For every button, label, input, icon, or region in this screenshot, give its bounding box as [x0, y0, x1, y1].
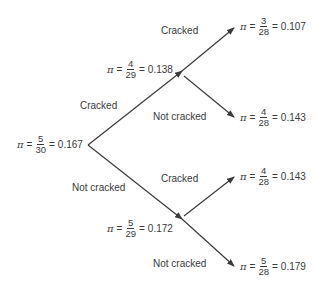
- equals-sign: =: [139, 224, 145, 234]
- pi-symbol: π: [240, 262, 247, 272]
- pi-symbol: π: [107, 224, 114, 234]
- probability-value: 0.179: [281, 262, 306, 272]
- leaf-probability-4: π = 5 28 = 0.179: [240, 256, 306, 277]
- leaf-probability-2: π = 4 28 = 0.143: [240, 107, 306, 128]
- equals-sign: =: [272, 172, 278, 182]
- equals-sign: =: [250, 262, 256, 272]
- equals-sign: =: [117, 224, 123, 234]
- label-upper-not-cracked: Not cracked: [153, 111, 206, 122]
- lower-node-probability: π = 5 29 = 0.172: [107, 218, 173, 239]
- equals-sign: =: [139, 65, 145, 75]
- label-first-cracked: Cracked: [80, 100, 117, 111]
- probability-value: 0.138: [148, 65, 173, 75]
- equals-sign: =: [250, 22, 256, 32]
- pi-symbol: π: [240, 113, 247, 123]
- probability-value: 0.107: [281, 22, 306, 32]
- leaf-probability-3: π = 4 28 = 0.143: [240, 166, 306, 187]
- upper-node-probability: π = 4 29 = 0.138: [107, 59, 173, 80]
- leaf-probability-1: π = 3 28 = 0.107: [240, 16, 306, 37]
- denominator: 28: [258, 177, 269, 187]
- denominator: 29: [125, 70, 136, 80]
- fraction: 5 28: [258, 256, 269, 277]
- probability-value: 0.143: [281, 172, 306, 182]
- denominator: 29: [125, 229, 136, 239]
- denominator: 30: [35, 145, 46, 155]
- equals-sign: =: [272, 22, 278, 32]
- probability-value: 0.167: [58, 140, 83, 150]
- fraction: 5 29: [125, 218, 136, 239]
- equals-sign: =: [272, 262, 278, 272]
- label-lower-not-cracked: Not cracked: [153, 258, 206, 269]
- label-upper-cracked: Cracked: [161, 25, 198, 36]
- label-first-not-cracked: Not cracked: [72, 182, 125, 193]
- fraction: 5 30: [35, 134, 46, 155]
- denominator: 28: [258, 118, 269, 128]
- probability-value: 0.143: [281, 113, 306, 123]
- equals-sign: =: [250, 113, 256, 123]
- probability-value: 0.172: [148, 224, 173, 234]
- pi-symbol: π: [240, 172, 247, 182]
- label-lower-cracked: Cracked: [161, 173, 198, 184]
- pi-symbol: π: [107, 65, 114, 75]
- pi-symbol: π: [240, 22, 247, 32]
- root-probability: π = 5 30 = 0.167: [17, 134, 83, 155]
- equals-sign: =: [117, 65, 123, 75]
- equals-sign: =: [272, 113, 278, 123]
- pi-symbol: π: [17, 140, 24, 150]
- fraction: 4 28: [258, 107, 269, 128]
- fraction: 4 29: [125, 59, 136, 80]
- fraction: 3 28: [258, 16, 269, 37]
- equals-sign: =: [49, 140, 55, 150]
- equals-sign: =: [250, 172, 256, 182]
- fraction: 4 28: [258, 166, 269, 187]
- denominator: 28: [258, 27, 269, 37]
- equals-sign: =: [27, 140, 33, 150]
- denominator: 28: [258, 267, 269, 277]
